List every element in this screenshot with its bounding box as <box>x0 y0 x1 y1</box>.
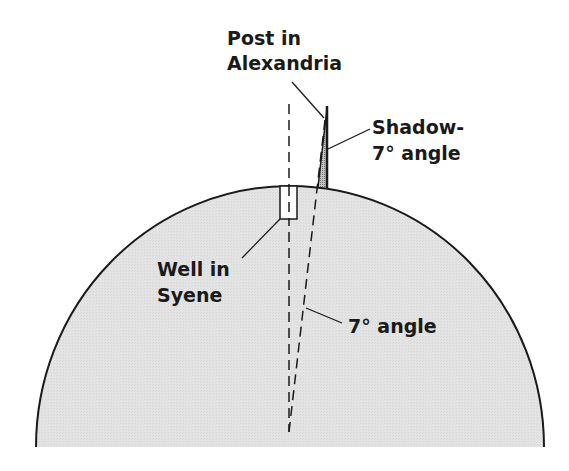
shadow-label-line2: 7° angle <box>372 142 461 164</box>
earth-sun-angle-diagram: Post in Alexandria Shadow- 7° angle Well… <box>0 0 569 471</box>
well-label-line1: Well in <box>157 258 230 280</box>
shadow-leader-line <box>328 129 370 149</box>
post-label-line2: Alexandria <box>227 52 342 74</box>
center-angle-label: 7° angle <box>348 315 437 337</box>
earth-surface <box>36 186 544 447</box>
diagram-canvas: Post in Alexandria Shadow- 7° angle Well… <box>0 0 569 471</box>
post-leader-line <box>292 82 324 118</box>
shadow-label-line1: Shadow- <box>372 116 464 138</box>
post-label-line1: Post in <box>227 27 301 49</box>
well-label-line2: Syene <box>157 284 222 306</box>
